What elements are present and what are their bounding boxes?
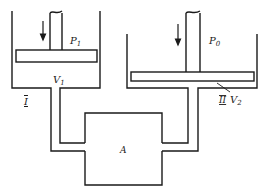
right-piston-plate [131,72,254,81]
right-cylinder-left-wall [127,34,188,143]
right-piston-rod [186,13,200,72]
label-p1: P1 [69,35,81,48]
left-piston-plate [16,50,97,62]
label-vessel-ii: II [218,95,227,105]
left-rod-break [50,11,62,13]
diagram-canvas: P1 P0 V1 V2 I II A [0,0,263,190]
left-arrow-head [41,34,46,40]
right-cylinder-outer [162,34,257,151]
left-cylinder-outer [12,11,85,151]
label-v1: V1 [53,74,65,87]
left-piston-rod [50,13,62,50]
label-v2: V2 [230,94,242,107]
left-cylinder-right-wall [60,11,100,143]
right-rod-break [186,11,200,13]
right-arrow-head [176,39,181,45]
label-p0: P0 [208,35,221,48]
label-chamber-a: A [119,145,127,155]
label-vessel-i: I [23,96,29,107]
